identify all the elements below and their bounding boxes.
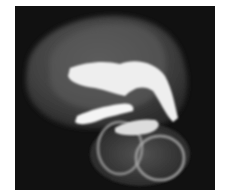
volume-render [15, 6, 215, 190]
render-viewport [15, 6, 215, 190]
